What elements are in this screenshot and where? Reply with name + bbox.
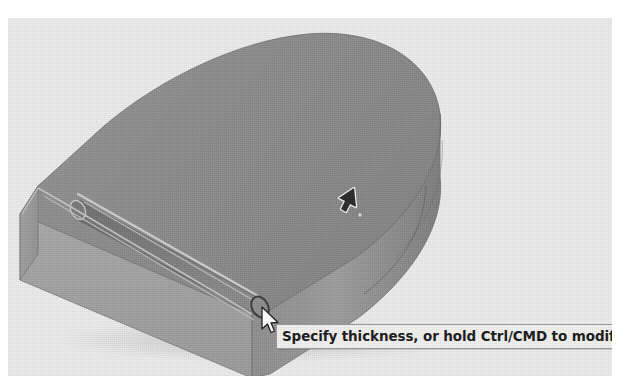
3d-viewport[interactable]: Specify thickness, or hold Ctrl/CMD to m…	[8, 18, 612, 376]
tooltip-text: Specify thickness, or hold Ctrl/CMD to m…	[282, 330, 612, 344]
3d-model-canvas[interactable]	[8, 18, 612, 376]
cad-application-window: Specify thickness, or hold Ctrl/CMD to m…	[0, 0, 624, 392]
tooltip: Specify thickness, or hold Ctrl/CMD to m…	[276, 324, 612, 349]
